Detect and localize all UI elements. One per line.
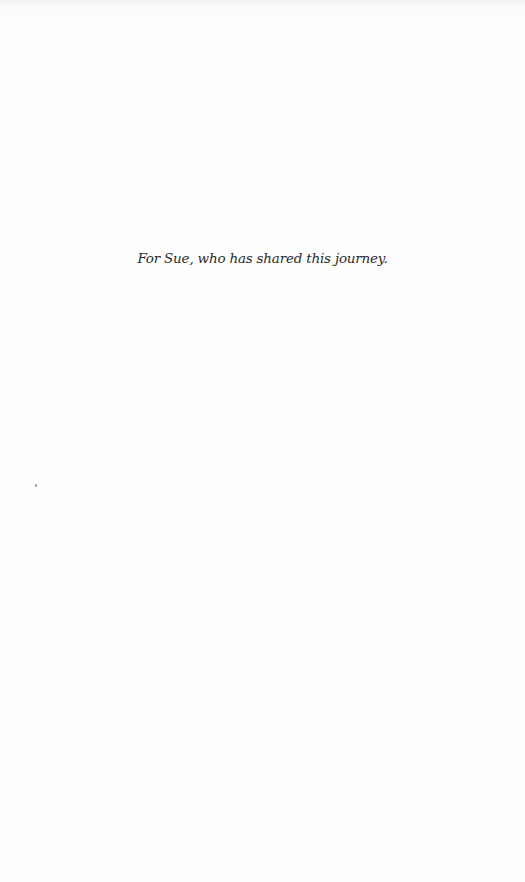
book-page: For Sue, who has shared this journey. [0, 0, 525, 882]
dedication-text: For Sue, who has shared this journey. [0, 250, 525, 266]
scan-speck [35, 484, 37, 487]
